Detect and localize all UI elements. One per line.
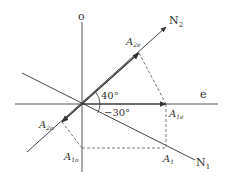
e-axis-label: e: [200, 88, 207, 101]
dash-a1e-a2e: [139, 53, 166, 104]
a2e-label: A2e: [125, 36, 141, 48]
dash-a1o-a2o: [62, 122, 82, 148]
n2-label: N2: [169, 14, 183, 29]
a2o-label: A2o: [38, 119, 54, 131]
n1-label: N1: [196, 156, 210, 171]
angle-40-label: 40°: [101, 90, 119, 101]
angle-minus30-label: −30°: [104, 107, 130, 118]
polarization-diagram: o e N2 N1 40° −30° A2e A2o A1e A1o A1: [0, 0, 230, 185]
a2o-vector: [62, 104, 82, 122]
a1e-label: A1e: [168, 108, 184, 120]
n2-line: [27, 27, 166, 152]
o-axis-label: o: [78, 10, 85, 23]
a1o-label: A1o: [63, 151, 79, 163]
a1-label: A1: [162, 153, 174, 165]
angle-arc-40: [96, 92, 100, 104]
